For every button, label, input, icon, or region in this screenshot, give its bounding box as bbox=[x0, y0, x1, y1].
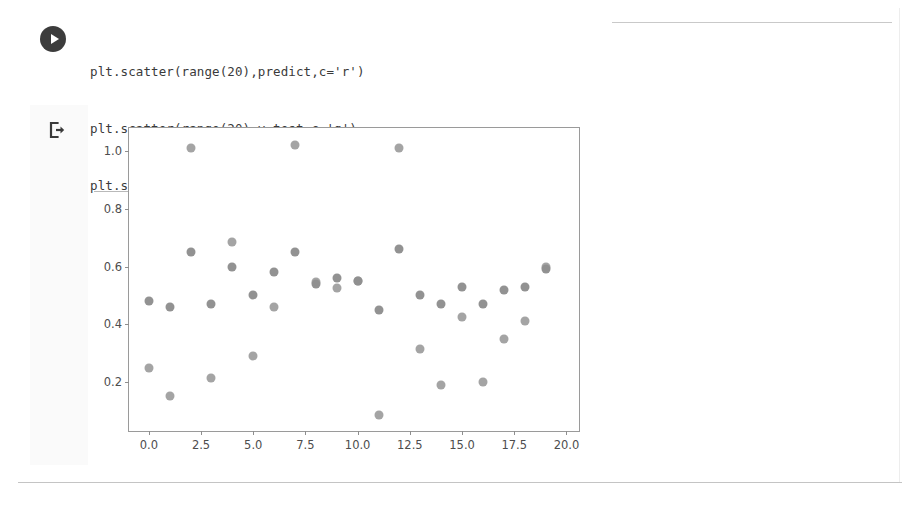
scatter-point bbox=[186, 248, 195, 257]
scatter-point bbox=[332, 274, 341, 283]
scatter-point bbox=[228, 262, 237, 271]
output-arrow-icon bbox=[47, 120, 67, 140]
scatter-point bbox=[499, 285, 508, 294]
x-tick-mark bbox=[514, 431, 515, 435]
code-line-1: plt.scatter(range(20),predict,c='r') bbox=[90, 62, 365, 81]
y-tick-mark bbox=[125, 151, 129, 152]
x-tick-mark bbox=[253, 431, 254, 435]
x-tick-label: 15.0 bbox=[449, 438, 475, 452]
x-tick-mark bbox=[149, 431, 150, 435]
x-tick-mark bbox=[462, 431, 463, 435]
scatter-point bbox=[416, 291, 425, 300]
scatter-point bbox=[541, 262, 550, 271]
x-tick-label: 7.5 bbox=[296, 438, 314, 452]
scatter-point bbox=[332, 284, 341, 293]
y-tick-mark bbox=[125, 324, 129, 325]
scatter-point bbox=[144, 363, 153, 372]
plot-axes: 0.20.40.60.81.0 0.02.55.07.510.012.515.0… bbox=[128, 127, 580, 432]
x-tick-mark bbox=[201, 431, 202, 435]
y-tick-label: 0.8 bbox=[104, 202, 122, 216]
scatter-point bbox=[353, 276, 362, 285]
scatter-point bbox=[478, 377, 487, 386]
y-tick-label: 0.6 bbox=[104, 260, 122, 274]
run-cell-button[interactable] bbox=[40, 26, 66, 52]
y-tick-mark bbox=[125, 382, 129, 383]
x-tick-mark bbox=[410, 431, 411, 435]
scatter-point bbox=[499, 334, 508, 343]
header-divider bbox=[612, 22, 892, 23]
scatter-point bbox=[520, 282, 529, 291]
scatter-point bbox=[520, 317, 529, 326]
x-tick-mark bbox=[305, 431, 306, 435]
scatter-point bbox=[207, 300, 216, 309]
scatter-point bbox=[478, 300, 487, 309]
scatter-point bbox=[165, 302, 174, 311]
scatter-point bbox=[311, 278, 320, 287]
notebook-cell: plt.scatter(range(20),predict,c='r') plt… bbox=[0, 0, 915, 511]
scatter-point bbox=[270, 302, 279, 311]
y-tick-label: 0.2 bbox=[104, 375, 122, 389]
y-tick-label: 0.4 bbox=[104, 317, 122, 331]
y-tick-mark bbox=[125, 209, 129, 210]
scatter-point bbox=[437, 380, 446, 389]
x-tick-label: 17.5 bbox=[501, 438, 527, 452]
play-icon bbox=[51, 34, 59, 44]
y-tick-label: 1.0 bbox=[104, 144, 122, 158]
x-tick-label: 5.0 bbox=[244, 438, 262, 452]
scatter-point bbox=[458, 282, 467, 291]
scatter-point bbox=[144, 297, 153, 306]
scatter-point bbox=[291, 141, 300, 150]
cell-right-edge bbox=[899, 8, 900, 482]
scatter-point bbox=[374, 305, 383, 314]
scatter-point bbox=[165, 392, 174, 401]
scatter-point bbox=[249, 351, 258, 360]
scatter-point bbox=[186, 144, 195, 153]
scatter-point bbox=[270, 268, 279, 277]
x-tick-mark bbox=[566, 431, 567, 435]
scatter-point bbox=[249, 291, 258, 300]
x-tick-label: 2.5 bbox=[192, 438, 210, 452]
scatter-point bbox=[458, 313, 467, 322]
scatter-point bbox=[228, 237, 237, 246]
scatter-point bbox=[395, 144, 404, 153]
x-tick-mark bbox=[358, 431, 359, 435]
matplotlib-figure: 0.20.40.60.81.0 0.02.55.07.510.012.515.0… bbox=[96, 118, 596, 468]
x-tick-label: 10.0 bbox=[345, 438, 371, 452]
output-gutter bbox=[30, 105, 88, 465]
x-tick-label: 20.0 bbox=[554, 438, 580, 452]
x-tick-label: 12.5 bbox=[397, 438, 423, 452]
x-tick-label: 0.0 bbox=[140, 438, 158, 452]
y-tick-mark bbox=[125, 267, 129, 268]
scatter-point bbox=[416, 344, 425, 353]
scatter-point bbox=[437, 300, 446, 309]
scatter-point bbox=[207, 373, 216, 382]
scatter-point bbox=[374, 411, 383, 420]
scatter-point bbox=[291, 248, 300, 257]
scatter-point bbox=[395, 245, 404, 254]
cell-bottom-divider bbox=[18, 482, 902, 483]
